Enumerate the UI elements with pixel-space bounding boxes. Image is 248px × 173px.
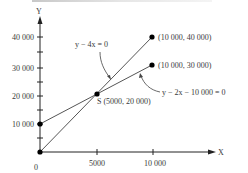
pointer-line1 — [100, 52, 110, 78]
origin-label: 0 — [34, 163, 38, 172]
y-tick-10000: 10 000 — [12, 120, 34, 129]
pointer-line2-arrow-icon — [139, 73, 143, 78]
x-axis-arrow-icon — [208, 150, 216, 155]
label-point-top: (10 000, 40 000) — [158, 33, 212, 42]
label-line1-equation: y − 4x = 0 — [75, 40, 108, 49]
point-s — [94, 91, 99, 96]
point-10000-30000 — [149, 62, 154, 67]
point-10000-40000 — [149, 34, 154, 39]
graph-canvas: Y X 40 000 30 000 20 000 10 000 0 5000 1… — [0, 0, 248, 173]
y-tick-20000: 20 000 — [12, 92, 34, 101]
pointer-line1-arrow-icon — [107, 75, 111, 80]
point-0-10000 — [37, 121, 42, 126]
pointer-line2 — [141, 76, 160, 92]
x-axis-label: X — [218, 148, 224, 157]
x-tick-10000: 10 000 — [144, 159, 166, 168]
y-tick-30000: 30 000 — [12, 64, 34, 73]
label-line2-equation: y − 2x − 10 000 = 0 — [162, 88, 226, 97]
y-tick-40000: 40 000 — [12, 33, 34, 42]
y-axis-label: Y — [36, 7, 42, 16]
point-origin — [37, 149, 42, 154]
label-point-mid: (10 000, 30 000) — [158, 61, 212, 70]
y-axis-arrow-icon — [38, 16, 43, 24]
label-point-s: S (5000, 20 000) — [97, 97, 151, 106]
x-tick-5000: 5000 — [89, 159, 105, 168]
